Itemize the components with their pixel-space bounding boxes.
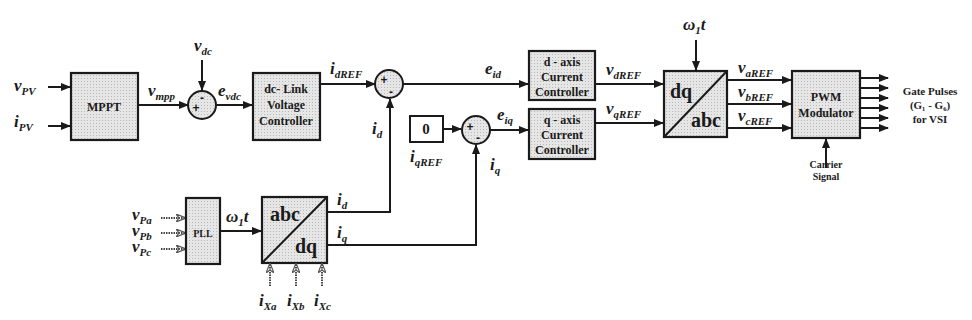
svg-text:MPPT: MPPT xyxy=(87,100,121,114)
label-v-dc: vdc xyxy=(194,36,212,57)
label-i-qref: iqREF xyxy=(410,147,443,168)
svg-text:-: - xyxy=(200,91,204,105)
svg-text:abc: abc xyxy=(691,109,721,131)
label-i-xc: iXc xyxy=(314,291,331,312)
label-v-pv: vPV xyxy=(14,76,37,97)
sum-junction-q: + - xyxy=(462,116,490,145)
svg-text:0: 0 xyxy=(422,121,430,137)
zero-block: 0 xyxy=(410,116,443,142)
svg-text:dq: dq xyxy=(295,235,317,258)
label-v-aref: vaREF xyxy=(738,58,774,79)
svg-text:abc: abc xyxy=(270,203,300,225)
svg-text:+: + xyxy=(192,101,199,115)
svg-text:PLL: PLL xyxy=(193,228,213,239)
q-axis-controller-block: q - axis Current Controller xyxy=(529,109,595,159)
label-v-bref: vbREF xyxy=(738,82,774,103)
label-i-xb: iXb xyxy=(287,291,305,312)
pll-block: PLL xyxy=(186,198,220,264)
svg-text:Controller: Controller xyxy=(259,114,313,128)
label-i-dref: idREF xyxy=(330,59,363,80)
label-omega-top: ω1t xyxy=(683,15,707,36)
svg-text:Voltage: Voltage xyxy=(267,98,306,112)
svg-text:Current: Current xyxy=(541,128,583,142)
carrier-label-2: Signal xyxy=(813,171,840,182)
label-v-dref: vdREF xyxy=(606,60,642,81)
wire-i-q-feedback xyxy=(327,145,476,245)
svg-text:for VSI: for VSI xyxy=(913,113,948,125)
svg-text:+: + xyxy=(466,120,473,134)
dc-link-controller-block: dc- Link Voltage Controller xyxy=(253,73,320,140)
label-i-d-out: id xyxy=(337,190,348,211)
label-e-vdc: evdc xyxy=(218,81,241,102)
gate-pulse-arrows xyxy=(860,78,888,128)
svg-text:Gate Pulses: Gate Pulses xyxy=(903,85,958,97)
svg-text:q - axis: q - axis xyxy=(544,113,581,127)
label-i-q-out: iq xyxy=(337,223,348,244)
abc-to-dq-block: abc dq xyxy=(262,197,327,263)
svg-text:Controller: Controller xyxy=(535,143,589,157)
gate-pulses-label: Gate Pulses (G₁ - G₆) for VSI xyxy=(903,85,958,125)
svg-text:Current: Current xyxy=(541,70,583,84)
svg-text:d - axis: d - axis xyxy=(544,55,581,69)
svg-text:dc- Link: dc- Link xyxy=(264,82,308,96)
label-v-cref: vcREF xyxy=(738,106,773,127)
sum-junction-d: + - xyxy=(375,70,403,99)
label-e-iq: eiq xyxy=(497,105,514,126)
control-diagram: vPV iPV MPPT vmpp + - vdc evdc dc- Link … xyxy=(0,0,972,320)
label-i-d-feedback: id xyxy=(372,119,383,140)
label-v-mpp: vmpp xyxy=(148,81,176,102)
dq-to-abc-block: dq abc xyxy=(664,71,727,137)
label-e-id: eid xyxy=(485,59,502,80)
svg-text:Controller: Controller xyxy=(535,85,589,99)
svg-text:-: - xyxy=(389,85,393,99)
label-i-q-feedback: iq xyxy=(490,155,501,176)
mppt-block: MPPT xyxy=(71,73,138,140)
pwm-modulator-block: PWM Modulator xyxy=(792,71,860,138)
svg-text:dq: dq xyxy=(670,80,692,103)
svg-text:PWM: PWM xyxy=(811,90,842,104)
svg-text:-: - xyxy=(476,131,480,145)
label-i-xa: iXa xyxy=(259,291,277,312)
carrier-label-1: Carrier xyxy=(810,159,843,170)
svg-text:+: + xyxy=(380,73,387,87)
label-omega-pll: ω1t xyxy=(226,207,250,228)
label-v-qref: vqREF xyxy=(606,99,642,120)
label-i-pv: iPV xyxy=(14,112,34,133)
sum-junction-vdc: + - xyxy=(188,91,216,119)
d-axis-controller-block: d - axis Current Controller xyxy=(529,51,595,100)
svg-text:(G₁ - G₆): (G₁ - G₆) xyxy=(910,99,951,112)
svg-text:Modulator: Modulator xyxy=(798,106,854,120)
